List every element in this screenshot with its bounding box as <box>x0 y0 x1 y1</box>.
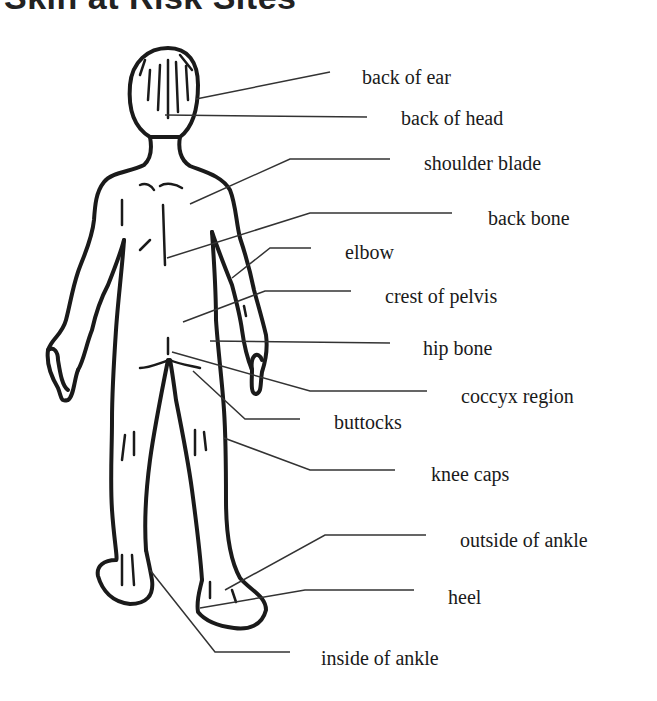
label-inside-of-ankle: inside of ankle <box>321 648 439 668</box>
leader-back-bone <box>167 213 452 258</box>
label-back-bone: back bone <box>488 208 570 228</box>
label-back-of-head: back of head <box>401 108 503 128</box>
label-heel: heel <box>448 587 481 607</box>
label-knee-caps: knee caps <box>431 464 509 484</box>
label-coccyx-region: coccyx region <box>461 386 574 406</box>
label-crest-of-pelvis: crest of pelvis <box>385 286 497 306</box>
leader-inside-of-ankle <box>150 570 290 652</box>
arm-mark <box>244 306 246 316</box>
label-buttocks: buttocks <box>334 412 402 432</box>
leader-coccyx-region <box>172 352 427 391</box>
leader-knee-caps <box>224 438 395 470</box>
label-elbow: elbow <box>345 242 394 262</box>
body-back-view-figure <box>0 0 657 701</box>
spine-line <box>163 205 165 265</box>
hair-strokes <box>140 55 192 118</box>
leader-back-of-ear <box>196 72 330 99</box>
leader-hip-bone <box>210 341 390 343</box>
leader-outside-of-ankle <box>225 535 426 590</box>
right-hand <box>252 355 262 370</box>
label-back-of-ear: back of ear <box>362 67 451 87</box>
label-hip-bone: hip bone <box>423 338 492 358</box>
leader-buttocks <box>193 371 300 419</box>
leader-crest-of-pelvis <box>183 291 351 322</box>
knee-marks-left <box>122 430 206 460</box>
torso-left-outline <box>48 137 152 401</box>
shoulder-marks <box>122 184 182 250</box>
label-outside-of-ankle: outside of ankle <box>460 530 588 550</box>
left-leg-inner <box>145 360 168 550</box>
ankle-marks <box>122 555 236 602</box>
label-shoulder-blade: shoulder blade <box>424 153 541 173</box>
right-leg-inner <box>170 360 202 580</box>
